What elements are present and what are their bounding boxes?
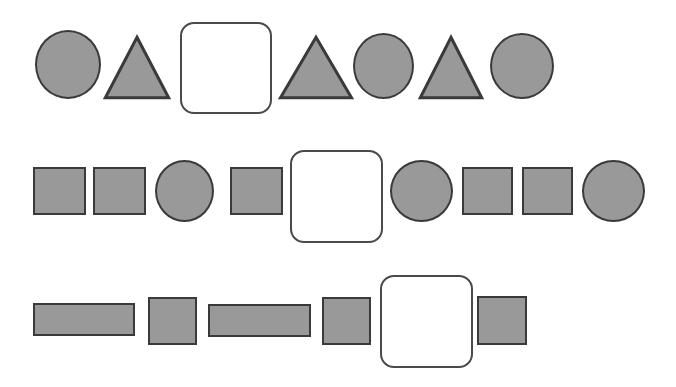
answer-slot-row1[interactable] [180, 22, 272, 114]
square-icon [33, 167, 86, 215]
puzzle-canvas [0, 0, 676, 387]
square-icon [462, 167, 513, 215]
triangle-glyph [104, 36, 170, 99]
narrow-rectangle-icon [148, 297, 197, 345]
wide-rectangle-icon [33, 303, 135, 336]
square-icon [93, 167, 146, 215]
shape-row-2 [0, 129, 676, 258]
shape-row-1 [0, 0, 676, 129]
answer-slot-row2[interactable] [290, 150, 383, 243]
narrow-rectangle-icon [477, 296, 527, 345]
wide-rectangle-icon [208, 304, 311, 337]
circle-icon [35, 30, 101, 99]
answer-slot-row3[interactable] [380, 275, 473, 368]
square-icon [522, 167, 573, 215]
circle-icon [353, 33, 414, 99]
circle-icon [490, 33, 554, 99]
triangle-icon [279, 36, 353, 99]
triangle-glyph [279, 36, 353, 99]
triangle-glyph [419, 36, 483, 99]
circle-icon [390, 160, 453, 222]
circle-icon [582, 160, 645, 222]
triangle-icon [419, 36, 483, 99]
square-icon [230, 167, 283, 215]
triangle-icon [104, 36, 170, 99]
shape-row-3 [0, 258, 676, 387]
circle-icon [155, 160, 214, 222]
narrow-rectangle-icon [322, 297, 371, 345]
